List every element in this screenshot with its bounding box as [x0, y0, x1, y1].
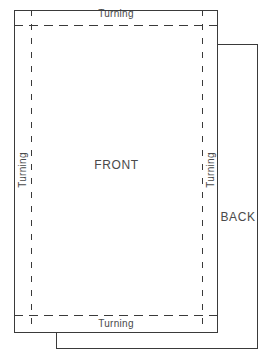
seam-line-bottom — [14, 315, 218, 316]
turning-label-top: Turning — [0, 8, 232, 19]
sewing-pattern-diagram: Turning Turning Turning Turning FRONT BA… — [0, 0, 264, 360]
turning-label-left: Turning — [17, 152, 28, 188]
turning-label-right: Turning — [205, 152, 216, 188]
seam-line-top — [14, 25, 218, 26]
back-panel-label: BACK — [218, 210, 258, 224]
front-panel-label: FRONT — [31, 158, 202, 172]
turning-label-bottom: Turning — [0, 318, 232, 329]
seam-line-right — [202, 10, 203, 333]
